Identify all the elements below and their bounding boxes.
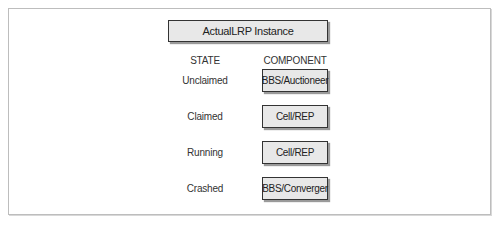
component-label: Cell/REP [276, 147, 314, 158]
component-label: BBS/Auctioneer [262, 75, 328, 86]
state-claimed: Claimed [170, 111, 240, 122]
title-label: ActualLRP Instance [202, 25, 293, 37]
state-running: Running [170, 147, 240, 158]
component-box-cell-rep-running: Cell/REP [262, 141, 328, 164]
actuallrp-instance-box: ActualLRP Instance [168, 20, 328, 42]
state-unclaimed: Unclaimed [170, 75, 240, 86]
state-crashed: Crashed [170, 183, 240, 194]
state-header: STATE [185, 55, 225, 66]
component-label: Cell/REP [276, 111, 314, 122]
component-header: COMPONENT [262, 55, 328, 66]
component-label: BBS/Converger [262, 183, 328, 194]
component-box-converger: BBS/Converger [262, 177, 328, 200]
component-box-cell-rep-claimed: Cell/REP [262, 105, 328, 128]
component-box-auctioneer: BBS/Auctioneer [262, 69, 328, 92]
